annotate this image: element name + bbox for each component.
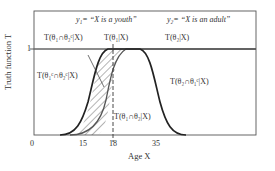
youth-truth-curve	[60, 49, 186, 135]
label-t-theta2-and-not-theta1: T(θ₂∩θ₁ᶜ|X)	[170, 77, 209, 86]
label-t-theta1-and-not-theta2: T(θ₁∩θ₂ᶜ|X)	[44, 33, 83, 42]
x-tick-label-0: 0	[30, 139, 34, 148]
label-t-theta1: T(θ₁|X)	[104, 33, 128, 42]
y-tick-label-one: 1	[27, 44, 31, 53]
label-t-theta1-and-theta2: T(θ₁∩θ₂|X)	[114, 112, 151, 121]
hypothesis-y2-label: y₂= “X is an adult”	[167, 15, 230, 24]
hypothesis-y1-label: y₁= “X is a youth”	[76, 15, 137, 24]
x-tick-label-18: 18	[109, 139, 117, 148]
x-tick-label-35: 35	[152, 139, 160, 148]
label-t-theta2: T(θ₂|X)	[165, 33, 189, 42]
x-axis-label: Age X	[128, 152, 150, 161]
truth-function-diagram	[0, 0, 275, 171]
x-tick-label-15: 15	[79, 139, 87, 148]
y-axis-label: Truth function T	[3, 34, 13, 90]
label-t-not-theta1-and-not-theta2: T(θ₁ᶜ∩θ₂ᶜ|X)	[37, 71, 78, 80]
